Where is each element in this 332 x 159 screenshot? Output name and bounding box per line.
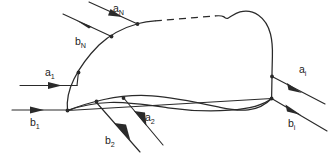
flux-arrow-a-1-riser (77, 74, 78, 86)
flux-arrow-b-N: bN (63, 14, 111, 50)
flux-arrow-a-i-shaft (273, 77, 325, 104)
flux-label-b-N: bN (75, 35, 86, 50)
node-dot-b-N (110, 35, 114, 39)
flux-arrow-b-i-head (286, 105, 302, 116)
flux-arrow-a-N: aN (89, 2, 136, 23)
flux-arrow-a-i-head (287, 83, 302, 93)
flux-label-a-2: a2 (145, 111, 155, 126)
flux-arrow-a-1: a1 (20, 66, 78, 89)
flux-arrow-b-1: b1 (12, 107, 67, 131)
flux-label-b-1: b1 (30, 116, 40, 131)
flux-arrow-b-i: bi (273, 99, 328, 132)
flux-arrow-a-i: ai (273, 63, 325, 104)
flux-boundary-figure: aN bN a1 b1 a2 (0, 0, 332, 159)
boundary-top-dashed (155, 16, 216, 21)
flux-label-b-2: b2 (105, 134, 115, 149)
flux-arrow-b-N-head (77, 21, 92, 29)
flux-arrow-b-1-head (30, 107, 44, 114)
flux-label-b-i: bi (288, 117, 296, 132)
flux-label-a-i: ai (299, 63, 307, 78)
node-dot-a-i (270, 75, 274, 79)
diagram-canvas: aN bN a1 b1 a2 (0, 0, 332, 159)
flux-arrow-a-1-head (48, 82, 62, 89)
flux-arrow-b-i-shaft (273, 99, 328, 131)
boundary-right-solid (216, 11, 273, 76)
flux-label-a-1: a1 (45, 66, 55, 81)
